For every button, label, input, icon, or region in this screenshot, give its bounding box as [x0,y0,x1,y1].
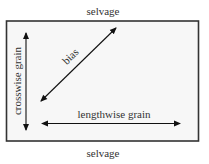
lengthwise-grain-label: lengthwise grain [77,108,151,120]
fabric-grain-diagram: selvage crosswise grain bias lengthwise … [0,0,209,164]
selvage-bottom-label: selvage [87,147,120,159]
crosswise-grain-label: crosswise grain [11,46,23,115]
selvage-top-label: selvage [87,5,120,17]
